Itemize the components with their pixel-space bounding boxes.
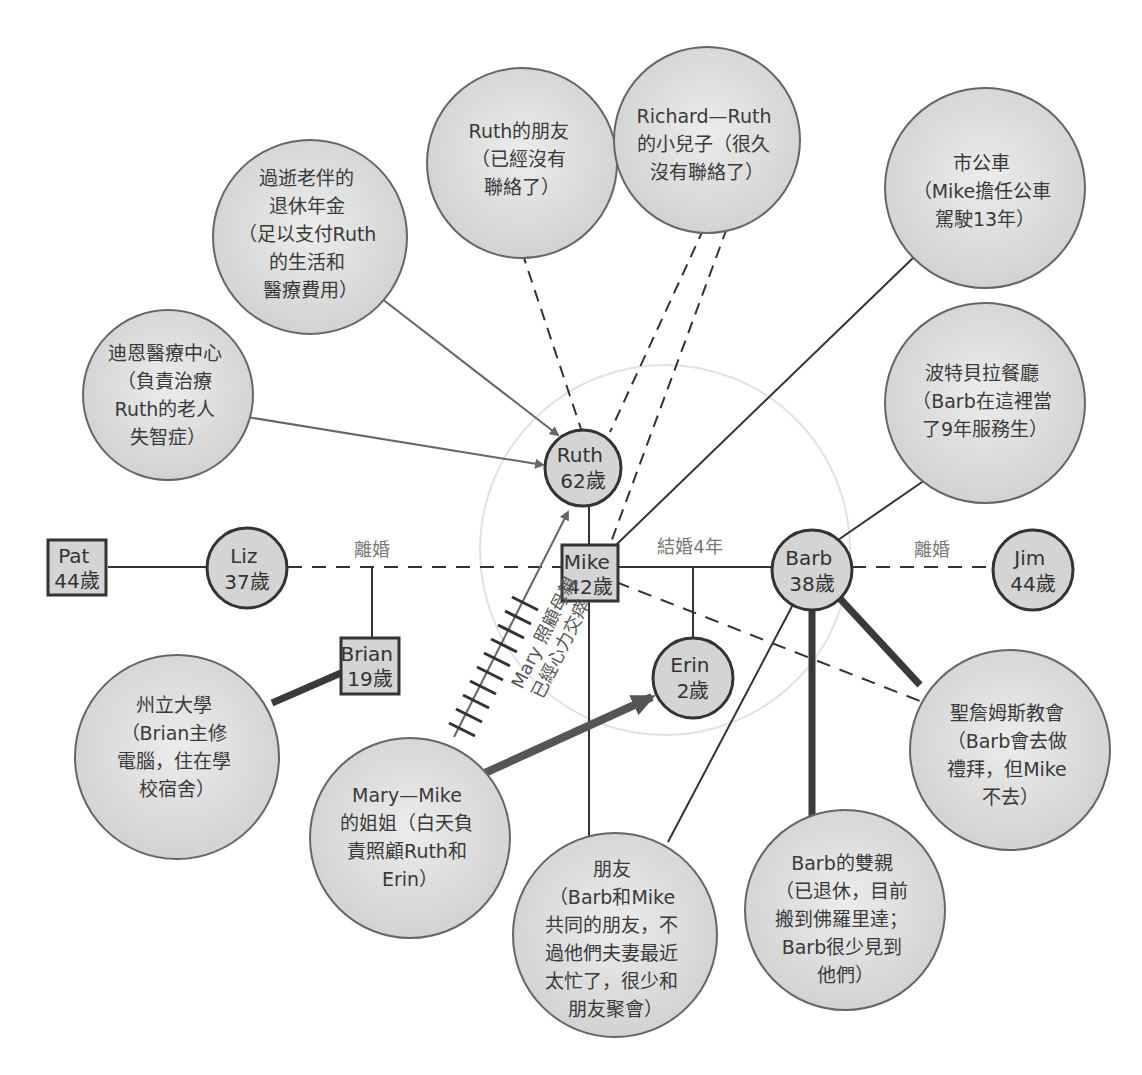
svg-text:波特貝拉餐廳 （Barb在這裡當 了: 波特貝拉餐廳 （Barb在這裡當 了9年服務生） xyxy=(912,362,1058,440)
person-barb: Barb 38歲 xyxy=(772,530,852,610)
label-mike-barb-married: 結婚4年 xyxy=(657,536,722,557)
svg-text:Ruth的朋友 （已經沒有 聯絡了）: Ruth的朋友 （已經沒有 聯絡了） xyxy=(469,120,576,198)
person-jim: Jim 44歲 xyxy=(993,530,1073,610)
resource-state-university: 州立大學 （Brian主修 電腦，住在學 校宿舍） xyxy=(75,655,279,859)
resource-dean-medical: 迪恩醫療中心 （負責治療 Ruth的老人 失智症） xyxy=(83,310,253,480)
line-mary-erin-strong xyxy=(476,697,652,777)
resource-friends: 朋友 （Barb和Mike 共同的朋友，不 過他們夫妻最近 太忙了，很少和 朋友… xyxy=(513,833,717,1037)
person-erin: Erin 2歲 xyxy=(653,638,733,718)
person-pat: Pat 44歲 xyxy=(48,540,106,595)
resource-richard: Richard—Ruth 的小兒子（很久 沒有聯絡了） xyxy=(614,47,800,233)
label-liz-mike-divorce: 離婚 xyxy=(354,539,390,560)
line-barb-friends xyxy=(668,597,797,842)
line-ruthfriends-ruth xyxy=(522,252,582,432)
resource-mary: Mary—Mike 的姐姐（白天負 責照顧Ruth和 Erin） xyxy=(310,738,510,938)
svg-text:Brian 19歲: Brian 19歲 xyxy=(341,642,400,691)
line-citybus-mike xyxy=(616,258,913,545)
ecomap-diagram: 迪恩醫療中心 （負責治療 Ruth的老人 失智症） 過逝老伴的 退休年金 （足以… xyxy=(0,0,1142,1075)
label-barb-jim-divorce: 離婚 xyxy=(914,539,950,560)
resource-st-james-church: 聖詹姆斯教會 （Barb會去做 禮拜，但Mike 不去） xyxy=(910,650,1110,850)
resource-city-bus: 市公車 （Mike擔任公車 駕駛13年） xyxy=(885,88,1085,288)
line-richard-mike xyxy=(610,228,727,545)
line-pension-ruth xyxy=(368,288,558,435)
line-dean-ruth xyxy=(247,417,543,465)
resource-ruth-friends: Ruth的朋友 （已經沒有 聯絡了） xyxy=(427,68,617,258)
resource-restaurant: 波特貝拉餐廳 （Barb在這裡當 了9年服務生） xyxy=(885,303,1085,503)
resource-barb-parents: Barb的雙親 （已退休，目前 搬到佛羅里達； Barb很少見到 他們） xyxy=(745,810,945,1010)
svg-text:Pat 44歲: Pat 44歲 xyxy=(54,544,99,593)
person-brian: Brian 19歲 xyxy=(341,638,400,694)
resource-pension: 過逝老伴的 退休年金 （足以支付Ruth 的生活和 醫療費用） xyxy=(213,140,407,334)
svg-text:Richard—Ruth 的小兒子（很久: Richard—Ruth 的小兒子（很久 沒有聯絡了） xyxy=(636,105,777,183)
person-ruth: Ruth 62歲 xyxy=(545,430,621,506)
line-restaurant-barb xyxy=(838,480,925,540)
person-liz: Liz 37歲 xyxy=(207,528,287,608)
line-brian-university-strong xyxy=(272,673,341,703)
